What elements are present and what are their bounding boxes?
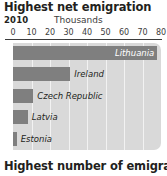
chart-title: Highest net emigration bbox=[4, 1, 151, 14]
x-tick-label-40: 40 bbox=[82, 28, 92, 38]
x-tick-label-20: 20 bbox=[45, 28, 55, 38]
x-tick-label-50: 50 bbox=[100, 28, 110, 38]
bar-label-czech-republic: Czech Republic bbox=[37, 90, 102, 102]
plot-area: LithuaniaIrelandCzech RepublicLatviaEsto… bbox=[13, 43, 161, 150]
bar-row: Ireland bbox=[13, 64, 161, 85]
x-tick-label-70: 70 bbox=[137, 28, 147, 38]
x-tick-label-10: 10 bbox=[26, 28, 36, 38]
bar-estonia bbox=[13, 132, 17, 146]
bar-label-lithuania: Lithuania bbox=[115, 47, 154, 59]
bar-row: Czech Republic bbox=[13, 86, 161, 107]
x-tick-label-0: 0 bbox=[10, 28, 15, 38]
chart-figure: Highest net emigration 2010 Thousands 01… bbox=[0, 0, 167, 176]
x-axis-rule bbox=[5, 39, 162, 40]
bar-label-estonia: Estonia bbox=[21, 133, 52, 145]
x-tick-label-30: 30 bbox=[63, 28, 73, 38]
next-section-heading: Highest number of emigrants bbox=[4, 160, 167, 173]
bar-row: Latvia bbox=[13, 107, 161, 128]
x-tick-label-60: 60 bbox=[119, 28, 129, 38]
bar-latvia bbox=[13, 110, 28, 124]
x-tick-label-80: 80 bbox=[156, 28, 166, 38]
bar-row: Lithuania bbox=[13, 43, 161, 64]
bar-row: Estonia bbox=[13, 129, 161, 150]
x-axis-unit-label: Thousands bbox=[54, 15, 103, 26]
bar-ireland bbox=[13, 67, 70, 81]
bar-series: LithuaniaIrelandCzech RepublicLatviaEsto… bbox=[13, 43, 161, 150]
bar-label-ireland: Ireland bbox=[74, 68, 104, 80]
bar-label-latvia: Latvia bbox=[32, 111, 58, 123]
bar-czech-republic bbox=[13, 89, 33, 103]
x-axis-tick-labels: 01020304050607080 bbox=[0, 28, 167, 39]
chart-subtitle-year: 2010 bbox=[4, 15, 28, 25]
